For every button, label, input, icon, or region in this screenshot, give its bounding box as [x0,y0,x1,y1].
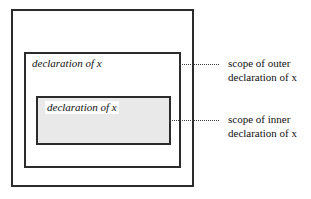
inner-scope-annotation: scope of inner declaration of x [228,113,297,140]
outer-scope-annotation-line1: scope of outer [228,57,297,71]
outer-scope-annotation-line2: declaration of x [228,71,297,85]
scope-diagram: declaration of x declaration of x scope … [0,0,311,199]
outer-leader-line [179,64,219,65]
inner-scope-annotation-line2: declaration of x [228,127,297,141]
inner-declaration-label: declaration of x [45,101,119,114]
inner-leader-line [169,120,219,121]
outer-scope-annotation: scope of outer declaration of x [228,57,297,84]
inner-scope-annotation-line1: scope of inner [228,113,297,127]
outer-declaration-label: declaration of x [32,57,102,70]
